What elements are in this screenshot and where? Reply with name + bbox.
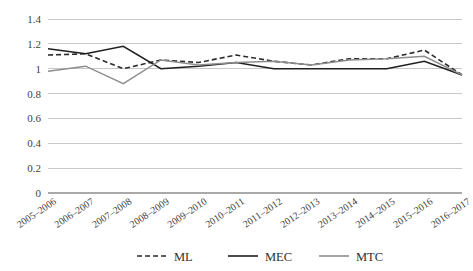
y-tick-label: 0.2 (27, 162, 41, 174)
x-tick-label: 2011–2012 (241, 196, 284, 230)
x-tick-label: 2009–2010 (165, 196, 208, 230)
gridlines (48, 19, 462, 193)
x-tick-label: 2007–2008 (90, 196, 133, 230)
chart-legend: MLMECMTC (137, 250, 383, 264)
legend-label-ml: ML (174, 250, 193, 264)
y-axis-tick-labels: 00.20.40.60.811.21.4 (27, 13, 41, 199)
line-chart: 00.20.40.60.811.21.4 2005–20062006–20072… (0, 0, 473, 271)
y-tick-label: 0 (36, 187, 42, 199)
y-tick-label: 0.6 (27, 112, 41, 124)
y-tick-label: 1 (36, 63, 42, 75)
chart-canvas: 00.20.40.60.811.21.4 2005–20062006–20072… (0, 0, 473, 271)
x-tick-label: 2008–2009 (128, 196, 171, 230)
series-line-mec (48, 46, 462, 75)
legend-label-mtc: MTC (356, 250, 383, 264)
x-tick-label: 2015–2016 (391, 196, 434, 230)
x-tick-label: 2016–2017 (429, 196, 472, 230)
x-tick-label: 2013–2014 (316, 196, 359, 230)
y-tick-label: 1.4 (27, 13, 41, 25)
x-tick-label: 2012–2013 (278, 196, 321, 230)
x-axis-tick-labels: 2005–20062006–20072007–20082008–20092009… (15, 196, 472, 230)
y-tick-label: 0.4 (27, 137, 41, 149)
x-tick-label: 2010–2011 (203, 196, 246, 230)
y-tick-label: 0.8 (27, 88, 41, 100)
y-tick-label: 1.2 (27, 38, 41, 50)
series-lines (48, 46, 462, 83)
x-tick-label: 2006–2007 (52, 196, 95, 230)
series-line-mtc (48, 56, 462, 83)
x-tick-label: 2005–2006 (15, 196, 58, 230)
legend-label-mec: MEC (265, 250, 292, 264)
x-tick-label: 2014–2015 (353, 196, 396, 230)
